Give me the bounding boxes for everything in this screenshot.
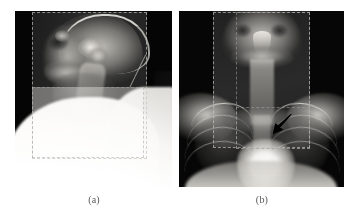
roi-brightened-block-a (32, 87, 144, 158)
orbit-right-shadow (271, 24, 288, 37)
panel-caption-a: (a) (44, 194, 144, 205)
orbit-shadow (55, 30, 70, 42)
xray-image-a (15, 11, 172, 187)
lesion-pointer-arrow-icon (267, 111, 293, 137)
xray-panel-a[interactable] (15, 11, 172, 187)
figure-root: (a) (b) (0, 0, 358, 218)
xray-image-b (179, 11, 344, 187)
xray-panel-b[interactable] (179, 11, 344, 187)
mastoid-shadow (89, 48, 107, 64)
panel-caption-b: (b) (212, 194, 312, 205)
orbit-left-shadow (234, 24, 251, 37)
